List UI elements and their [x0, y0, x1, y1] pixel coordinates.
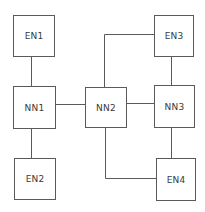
node-nn2: NN2 [85, 87, 127, 128]
node-en1: EN1 [13, 15, 55, 57]
node-en3: EN3 [154, 15, 194, 57]
node-en2-label: EN2 [26, 174, 45, 184]
node-nn3: NN3 [154, 85, 195, 128]
edge-nn2-en3 [105, 35, 155, 88]
node-nn1: NN1 [13, 86, 56, 129]
node-en1-label: EN1 [25, 31, 44, 41]
node-nn2-label: NN2 [96, 103, 116, 113]
node-en3-label: EN3 [165, 31, 184, 41]
node-en2: EN2 [14, 158, 56, 200]
node-en4-label: EN4 [167, 175, 186, 185]
edge-nn2-en4 [106, 127, 157, 179]
node-en4: EN4 [156, 158, 196, 201]
node-nn1-label: NN1 [25, 103, 45, 113]
network-diagram: EN1 NN1 EN2 NN2 EN3 NN3 EN4 [0, 0, 205, 212]
node-nn3-label: NN3 [165, 102, 185, 112]
